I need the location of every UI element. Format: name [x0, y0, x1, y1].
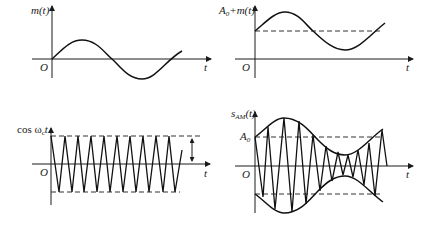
panel-am-signal: sAM(t) A0 O t — [231, 107, 413, 213]
y-axis-label: cos ωct — [17, 123, 49, 137]
y-axis-label: A0+m(t) — [218, 4, 255, 18]
x-axis-label: t — [204, 167, 208, 179]
x-axis-label: t — [204, 61, 208, 73]
panel-message-signal: m(t) O t — [31, 4, 211, 79]
y-axis-label: m(t) — [31, 4, 50, 17]
a0-label: A0 — [239, 130, 251, 144]
origin-label: O — [242, 168, 250, 180]
panel-dc-plus-message: A0+m(t) O t — [218, 4, 413, 78]
origin-label: O — [40, 166, 48, 178]
x-axis-label: t — [406, 168, 410, 180]
x-axis-label: t — [406, 61, 410, 73]
am-waveform — [255, 118, 387, 212]
origin-label: O — [242, 61, 250, 73]
y-axis-label: sAM(t) — [231, 107, 256, 121]
panel-carrier: cos ωct O t — [17, 123, 210, 205]
am-modulation-diagram: m(t) O t A0+m(t) O t cos ωct O t sAM(t) … — [0, 0, 430, 229]
origin-label: O — [40, 61, 48, 73]
